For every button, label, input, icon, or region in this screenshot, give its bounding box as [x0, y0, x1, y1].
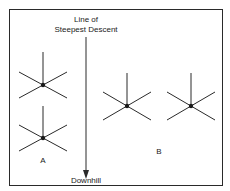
title-line-2: Steepest Descent — [54, 25, 118, 34]
star-center-dot-icon — [41, 83, 45, 87]
title-line-1: Line of — [74, 15, 99, 24]
star-a-lower — [19, 106, 67, 151]
star-center-dot-icon — [125, 104, 129, 108]
star-b-right — [167, 73, 215, 120]
steepest-descent-arrow — [83, 37, 89, 179]
group-b-label: B — [156, 147, 161, 156]
downhill-label: Downhill — [71, 176, 101, 185]
slope-orientation-diagram: Line of Steepest Descent Downhill A B — [0, 0, 230, 191]
star-a-upper — [19, 52, 67, 98]
star-b-left — [103, 73, 151, 120]
group-a-label: A — [40, 156, 46, 165]
star-center-dot-icon — [41, 136, 45, 140]
star-center-dot-icon — [189, 104, 193, 108]
